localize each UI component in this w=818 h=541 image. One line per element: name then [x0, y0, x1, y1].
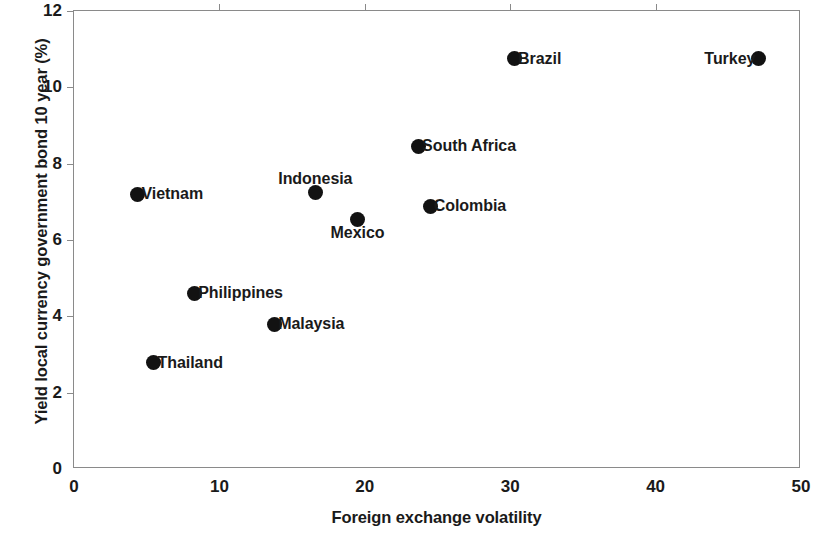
- x-axis-title: Foreign exchange volatility: [73, 508, 800, 527]
- y-axis-title: Yield local currency government bond 10 …: [32, 0, 51, 467]
- data-point-label: Brazil: [518, 50, 561, 68]
- data-point-marker[interactable]: Indonesia: [308, 185, 323, 200]
- data-point-label: Thailand: [157, 354, 222, 372]
- data-point-marker[interactable]: Philippines: [187, 286, 202, 301]
- scatter-chart-figure: Yield local currency government bond 10 …: [0, 0, 818, 541]
- data-point-label: Indonesia: [278, 170, 352, 188]
- plot-area: 024681012 01020304050 VietnamThailandPhi…: [73, 10, 800, 468]
- data-point-label: Colombia: [434, 197, 507, 215]
- x-tick-label: 50: [792, 477, 811, 497]
- y-tick-label: 12: [43, 1, 62, 21]
- data-point-label: Philippines: [198, 284, 283, 302]
- y-tick-mark: [67, 11, 74, 12]
- data-point-marker[interactable]: Mexico: [350, 212, 365, 227]
- x-tick-label: 10: [210, 477, 229, 497]
- y-tick-label: 6: [53, 230, 62, 250]
- x-tick-mark: [365, 4, 366, 11]
- data-point-marker[interactable]: South Africa: [411, 139, 426, 154]
- y-tick-label: 8: [53, 154, 62, 174]
- y-tick-mark: [67, 87, 74, 88]
- y-tick-mark: [67, 164, 74, 165]
- data-point-marker[interactable]: Thailand: [146, 355, 161, 370]
- y-tick-mark: [67, 240, 74, 241]
- data-point-marker[interactable]: Colombia: [423, 199, 438, 214]
- x-tick-mark: [219, 4, 220, 11]
- x-tick-label: 0: [69, 477, 78, 497]
- data-point-marker[interactable]: Turkey: [751, 51, 766, 66]
- x-tick-label: 40: [646, 477, 665, 497]
- data-point-label: South Africa: [422, 137, 516, 155]
- x-tick-mark: [510, 4, 511, 11]
- data-point-marker[interactable]: Malaysia: [267, 317, 282, 332]
- y-tick-mark: [67, 393, 74, 394]
- data-point-label: Malaysia: [278, 315, 344, 333]
- data-point-label: Vietnam: [141, 185, 203, 203]
- x-tick-label: 20: [355, 477, 374, 497]
- x-tick-label: 30: [501, 477, 520, 497]
- y-tick-label: 2: [53, 383, 62, 403]
- data-point-marker[interactable]: Vietnam: [130, 187, 145, 202]
- data-point-label: Mexico: [331, 224, 385, 242]
- y-tick-label: 10: [43, 77, 62, 97]
- y-tick-label: 4: [53, 306, 62, 326]
- y-tick-mark: [67, 316, 74, 317]
- data-point-marker[interactable]: Brazil: [507, 51, 522, 66]
- x-tick-mark: [656, 4, 657, 11]
- y-tick-label: 0: [53, 459, 62, 479]
- data-point-label: Turkey: [704, 50, 755, 68]
